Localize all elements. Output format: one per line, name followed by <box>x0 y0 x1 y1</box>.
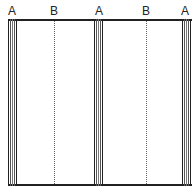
label-b-left: B <box>50 5 58 17</box>
a-line-group-center <box>94 19 103 186</box>
label-b-right: B <box>142 5 150 17</box>
b-dotted-line-left <box>54 21 55 184</box>
label-a-center: A <box>95 5 103 17</box>
a-line-group-left <box>8 19 17 186</box>
label-a-right: A <box>181 5 189 17</box>
b-dotted-line-right <box>146 21 147 184</box>
a-line-group-right <box>182 19 191 186</box>
label-a-left: A <box>8 5 16 17</box>
